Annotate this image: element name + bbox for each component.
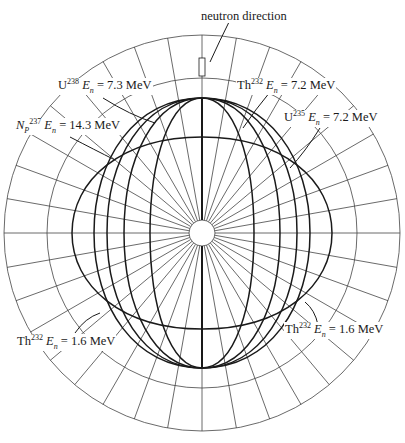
radial-line <box>213 240 373 333</box>
label-pointer-arrows <box>70 20 320 333</box>
radial-line <box>213 134 373 227</box>
neutron-direction-marker <box>199 58 205 76</box>
center-hub <box>189 220 215 246</box>
radial-line <box>168 246 200 428</box>
polar-diagram <box>0 0 405 443</box>
np237-arrow <box>70 137 115 160</box>
radial-line <box>204 38 236 220</box>
radial-line <box>215 235 397 267</box>
u235-arrow <box>290 128 320 168</box>
radial-line <box>168 38 200 220</box>
radial-line <box>31 134 191 227</box>
label-th232-bottom-left: Th232 En = 1.6 MeV <box>16 334 116 351</box>
label-u238: U238 En = 7.3 MeV <box>57 78 153 95</box>
label-np237: NP237 En = 14.3 MeV <box>15 118 121 135</box>
label-th232-top: Th232 En = 7.2 MeV <box>236 78 336 95</box>
label-th232-bottom-right: Th232 En = 1.6 MeV <box>284 322 384 339</box>
radial-line <box>215 199 397 231</box>
neutron-direction-arrow <box>210 20 230 62</box>
radial-line <box>204 246 236 428</box>
label-u235: U235 En = 7.2 MeV <box>283 110 379 127</box>
neutron-direction-label: neutron direction <box>200 10 288 23</box>
radial-line <box>31 240 191 333</box>
radial-line <box>7 199 189 231</box>
radial-line <box>103 244 196 404</box>
th232-bottom-left-arrow <box>75 313 100 333</box>
radial-line <box>7 235 189 267</box>
